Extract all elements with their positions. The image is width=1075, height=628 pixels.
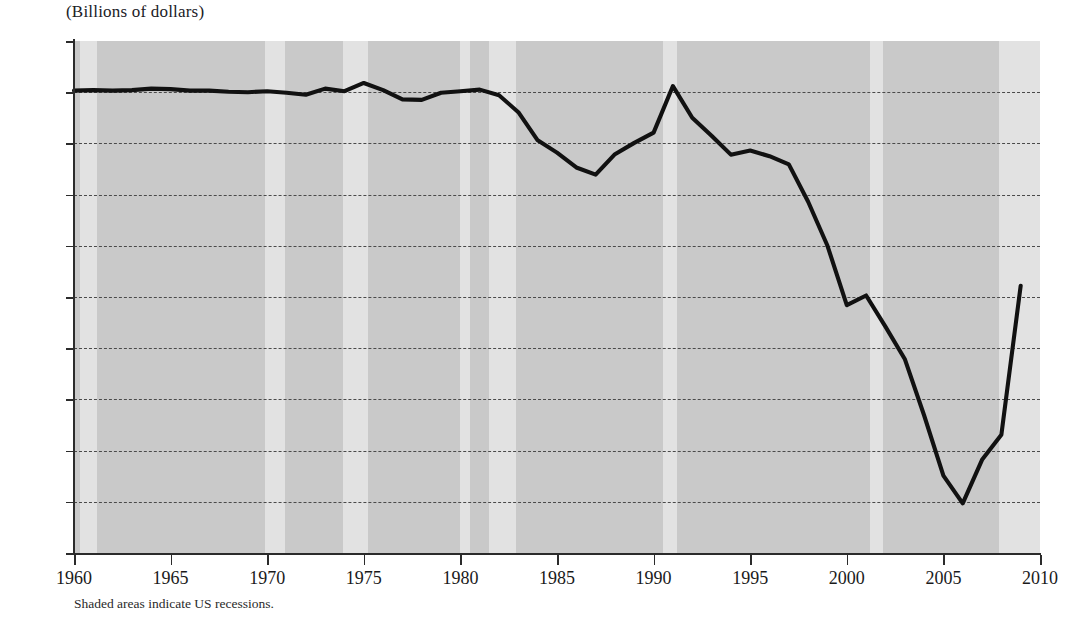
x-axis-tick: [1040, 555, 1042, 565]
y-axis-tick: [66, 451, 75, 453]
series-path: [74, 83, 1021, 503]
x-axis-tick: [171, 555, 173, 565]
y-axis-tick: [66, 195, 75, 197]
x-axis-tick-label: 2010: [1022, 568, 1058, 589]
x-axis-tick: [557, 555, 559, 565]
x-axis-tick-label: 2000: [829, 568, 865, 589]
y-axis-tick: [66, 246, 75, 248]
y-axis-tick: [66, 502, 75, 504]
x-axis-tick: [847, 555, 849, 565]
x-axis-tick-label: 1990: [636, 568, 672, 589]
x-axis-tick-label: 1985: [539, 568, 575, 589]
x-axis-tick: [267, 555, 269, 565]
y-axis-tick: [66, 348, 75, 350]
x-axis-tick: [460, 555, 462, 565]
x-axis-tick-label: 1975: [346, 568, 382, 589]
data-series-line: [74, 41, 1040, 553]
x-axis-tick-label: 1980: [442, 568, 478, 589]
y-axis-tick: [66, 41, 75, 43]
x-axis-tick-label: 1995: [732, 568, 768, 589]
x-axis-tick-label: 2005: [925, 568, 961, 589]
y-axis-tick: [66, 143, 75, 145]
chart-root: (Billions of dollars) 1000−100−200−300−4…: [0, 0, 1075, 628]
x-axis-tick-label: 1965: [153, 568, 189, 589]
x-axis-tick: [943, 555, 945, 565]
plot-area: [74, 41, 1040, 553]
chart-unit-label: (Billions of dollars): [66, 2, 204, 22]
y-axis-tick: [66, 297, 75, 299]
x-axis-tick-label: 1970: [249, 568, 285, 589]
x-axis-tick: [74, 555, 76, 565]
x-axis-tick-label: 1960: [56, 568, 92, 589]
y-axis-tick: [66, 399, 75, 401]
y-axis-tick: [66, 92, 75, 94]
x-axis-tick: [654, 555, 656, 565]
x-axis-tick: [364, 555, 366, 565]
chart-footnote: Shaded areas indicate US recessions.: [74, 596, 274, 612]
x-axis-tick: [750, 555, 752, 565]
